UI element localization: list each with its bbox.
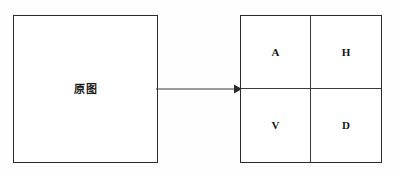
quadrant-top-left: A — [241, 16, 311, 89]
quadrant-label-d: D — [342, 120, 350, 131]
quadrant-bottom-left: V — [241, 89, 311, 162]
decomposition-box: A H V D — [240, 15, 382, 163]
source-image-label: 原图 — [74, 84, 97, 95]
quadrant-label-v: V — [272, 120, 280, 131]
source-image-box: 原图 — [13, 15, 158, 163]
quadrant-top-right: H — [311, 16, 381, 89]
diagram-canvas: 原图 A H V D — [0, 0, 399, 176]
quadrant-bottom-right: D — [311, 89, 381, 162]
transform-arrow — [156, 80, 244, 98]
quadrant-label-a: A — [272, 47, 280, 58]
quadrant-label-h: H — [342, 47, 351, 58]
